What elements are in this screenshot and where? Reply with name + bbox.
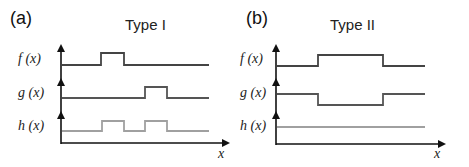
panel-a-f-waveform <box>62 53 209 65</box>
waveform-diagram <box>0 0 469 167</box>
panel-b-f-waveform <box>277 55 425 66</box>
panel-b-g-waveform <box>277 94 425 105</box>
panel-b-axes <box>276 46 444 145</box>
panel-a-h-waveform <box>62 121 209 131</box>
panel-a-g-waveform <box>62 87 209 98</box>
